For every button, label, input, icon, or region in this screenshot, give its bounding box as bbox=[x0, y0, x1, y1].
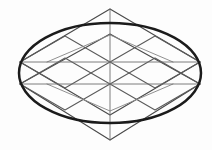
figure-container bbox=[0, 0, 212, 150]
lattice-ellipse-diagram bbox=[0, 0, 212, 150]
